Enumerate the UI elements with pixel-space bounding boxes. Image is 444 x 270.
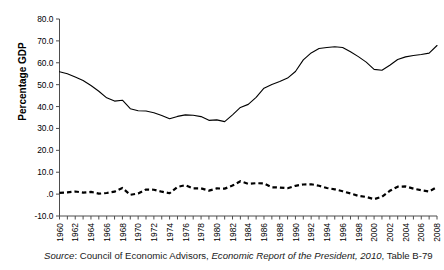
y-axis-tick-label: -10.0 xyxy=(34,211,53,221)
source-table-ref: , Table B-79 xyxy=(382,250,433,261)
x-axis-tick-label: 1994 xyxy=(322,223,332,242)
x-axis-tick-label: 1978 xyxy=(196,223,206,242)
x-axis-tick-label: 2000 xyxy=(369,223,379,242)
y-axis-tick-label: 50.0 xyxy=(37,80,54,90)
x-axis-tick-label: 1972 xyxy=(149,223,159,242)
y-axis-tick-label: 40.0 xyxy=(37,102,54,112)
x-axis-tick-label: 1986 xyxy=(259,223,269,242)
y-axis-tick-label: .0 xyxy=(47,189,54,199)
x-axis-tick-label: 2004 xyxy=(401,223,411,242)
x-axis-tick-label: 1982 xyxy=(228,223,238,242)
x-axis-tick-label: 1976 xyxy=(181,223,191,242)
x-axis-tick-label: 2006 xyxy=(416,223,426,242)
y-axis-tick-label: 10.0 xyxy=(37,167,54,177)
x-axis-tick-label: 1984 xyxy=(243,223,253,242)
x-axis-tick-label: 1980 xyxy=(212,223,222,242)
source-prefix: Source xyxy=(44,250,74,261)
x-axis-tick-label: 1992 xyxy=(306,223,316,242)
source-publication-title: Economic Report of the President, 2010 xyxy=(211,250,381,261)
source-caption: Source: Council of Economic Advisors, Ec… xyxy=(44,250,433,261)
y-axis-tick-label: 60.0 xyxy=(37,58,54,68)
x-axis-tick-label: 1998 xyxy=(354,223,364,242)
x-axis-tick-label: 1966 xyxy=(102,223,112,242)
x-axis-tick-label: 1988 xyxy=(275,223,285,242)
y-axis-tick-label: 70.0 xyxy=(37,36,54,46)
data-series-line xyxy=(60,181,438,199)
x-axis-tick-label: 1970 xyxy=(133,223,143,242)
x-axis-tick-label: 1968 xyxy=(118,223,128,242)
source-organization: Council of Economic Advisors, xyxy=(80,250,212,261)
y-axis-tick-label: 80.0 xyxy=(37,14,54,24)
y-axis-tick-label: 20.0 xyxy=(37,145,54,155)
x-axis-tick-label: 2008 xyxy=(432,223,442,242)
y-axis-tick-label: 30.0 xyxy=(37,123,54,133)
x-axis-tick-label: 1962 xyxy=(70,223,80,242)
line-chart-plot: 80.070.060.050.040.030.020.010.0.0-10.01… xyxy=(0,0,444,250)
x-axis-tick-label: 1964 xyxy=(86,223,96,242)
x-axis-tick-label: 1974 xyxy=(165,223,175,242)
x-axis-tick-label: 2002 xyxy=(385,223,395,242)
x-axis-tick-label: 1996 xyxy=(338,223,348,242)
x-axis-tick-label: 1990 xyxy=(291,223,301,242)
x-axis-tick-label: 1960 xyxy=(55,223,65,242)
data-series-line xyxy=(60,45,438,121)
chart-figure: Percentage GDP 80.070.060.050.040.030.02… xyxy=(0,0,444,270)
